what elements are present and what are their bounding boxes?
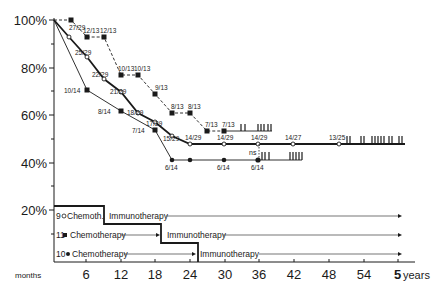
label-21-29: 21/29 [110,88,127,95]
row1-immuno-label: Immunotherapy [109,211,169,221]
y-tick-100: 100% [14,13,48,28]
label-7-13-b: 7/13 [222,121,235,128]
label-14-29-c: 14/29 [251,134,268,141]
label-12-13-a: 12/13 [83,27,100,34]
label-27-29: 27/29 [69,24,86,31]
label-6-14-a: 6/14 [165,164,178,171]
label-7-13-a: 7/13 [205,121,218,128]
label-14-29-a: 14/29 [185,134,202,141]
label-14-29-b: 14/29 [217,134,234,141]
label-10-13-a: 10/13 [118,65,135,72]
label-10-13-b: 10/13 [134,65,151,72]
x-tick-labels: months 6 12 18 24 30 36 42 48 54 5 years [15,267,430,282]
label-10-14: 10/14 [64,87,81,94]
label-8-13-b: 8/13 [188,103,201,110]
x-tick-5: 5 [394,267,401,282]
survival-chart: 100% 80% 60% 40% 20% months 6 12 18 24 3… [0,0,442,291]
ns-annotation: ns [249,149,257,156]
label-25-29: 25/29 [75,49,92,56]
x-axis [54,259,415,262]
x-tick-30: 30 [218,267,232,282]
label-13-25: 13/25 [329,134,346,141]
x-tick-54: 54 [357,267,371,282]
label-7-14: 7/14 [132,127,145,134]
x-axis-years-label: years [403,269,430,281]
row2-immuno-label: Immunotherapy [167,230,227,240]
label-15-29: 15/29 [163,135,180,142]
label-6-14-c: 6/14 [251,164,264,171]
censor-ticks-filled [262,152,302,160]
x-tick-6: 6 [82,267,89,282]
x-tick-18: 18 [148,267,162,282]
y-tick-labels: 100% 80% 60% 40% 20% [14,13,48,218]
label-14-27: 14/27 [285,134,302,141]
row3-chemo-label: Chemotherapy [72,249,129,259]
row1-chemo-label: Chemoth. [67,211,104,221]
label-12-13-b: 12/13 [100,27,117,34]
series-group-11-squares: 12/13 12/13 10/13 10/13 9/13 8/13 8/13 7… [54,18,272,134]
y-tick-40: 40% [21,156,47,171]
y-tick-60: 60% [21,108,47,123]
label-9-13: 9/13 [155,84,168,91]
y-axis [49,18,54,262]
treatment-schedule: 9 Chemoth. Immunotherapy 11 Chemotherapy… [54,206,402,262]
x-tick-36: 36 [252,267,266,282]
label-18-29: 18/29 [127,109,144,116]
label-6-14-b: 6/14 [217,164,230,171]
x-tick-24: 24 [183,267,197,282]
row3-immuno-label: Immunotherapy [200,249,260,259]
x-tick-48: 48 [322,267,336,282]
censor-ticks-squares [241,124,271,131]
label-8-14: 8/14 [98,108,111,115]
row2-chemo-label: Chemotherapy [70,230,127,240]
row3-prefix: 10 [56,249,66,259]
x-tick-12: 12 [114,267,128,282]
y-tick-20: 20% [21,203,47,218]
x-axis-months-label: months [15,271,41,280]
y-tick-80: 80% [21,61,47,76]
label-8-13-a: 8/13 [171,103,184,110]
label-22-29: 22/29 [92,71,109,78]
series-group-10-circles-filled: 10/14 8/14 7/14 6/14 6/14 6/14 ns [54,20,302,171]
x-tick-42: 42 [287,267,301,282]
censor-ticks-open [347,136,402,144]
row1-prefix: 9 [56,211,61,221]
